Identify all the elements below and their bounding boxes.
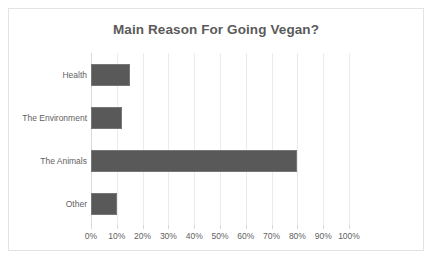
plot-area: HealthThe EnvironmentThe AnimalsOther 0%… xyxy=(91,53,349,225)
tick-mark xyxy=(117,225,118,229)
tick-mark xyxy=(168,225,169,229)
category-label: Other xyxy=(66,193,87,215)
bar-row: Other xyxy=(91,193,349,215)
tick-mark xyxy=(220,225,221,229)
bar xyxy=(91,150,297,172)
bar xyxy=(91,64,130,86)
tick-mark xyxy=(272,225,273,229)
category-label: The Environment xyxy=(22,107,87,129)
tick-mark xyxy=(246,225,247,229)
gridline-100 xyxy=(349,53,350,225)
bar-row: The Animals xyxy=(91,150,349,172)
bar xyxy=(91,107,122,129)
chart-title: Main Reason For Going Vegan? xyxy=(9,22,423,37)
bar-row: Health xyxy=(91,64,349,86)
bar-row: The Environment xyxy=(91,107,349,129)
tick-mark xyxy=(297,225,298,229)
bar xyxy=(91,193,117,215)
tick-mark xyxy=(91,225,92,229)
tick-mark xyxy=(143,225,144,229)
category-label: Health xyxy=(62,64,87,86)
chart-frame: Main Reason For Going Vegan? HealthThe E… xyxy=(8,8,424,251)
tick-mark xyxy=(349,225,350,229)
category-label: The Animals xyxy=(40,150,87,172)
x-tick-label: 100% xyxy=(329,231,369,241)
tick-mark xyxy=(323,225,324,229)
tick-mark xyxy=(194,225,195,229)
